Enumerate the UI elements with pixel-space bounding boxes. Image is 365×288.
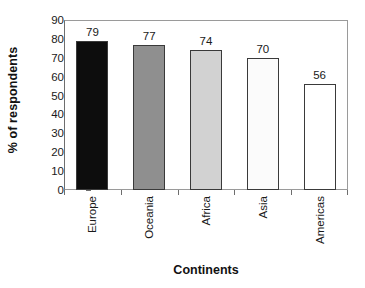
bar-africa	[190, 50, 222, 190]
x-axis-category-labels: Europe Oceania Africa Asia Americas	[64, 196, 348, 258]
x-category-asia: Asia	[235, 196, 291, 256]
bar-value-label: 56	[313, 69, 326, 82]
x-category-africa: Africa	[178, 196, 234, 256]
bar-chart: % of respondents 90 80 70 60 50 40 30 20…	[0, 0, 365, 288]
bar-value-label: 70	[256, 43, 269, 56]
x-category-label: Asia	[257, 196, 269, 218]
bar-value-label: 79	[86, 26, 99, 39]
y-axis-title-text: % of respondents	[6, 47, 20, 153]
x-tick-mark	[178, 190, 179, 195]
bar-slot-asia: 70	[234, 20, 291, 190]
bars-container: 79 77 74 70 56	[64, 20, 348, 190]
y-tick-label: 30	[30, 126, 64, 140]
bar-value-label: 74	[200, 35, 213, 48]
y-tick-label: 0	[30, 183, 64, 197]
x-tick-mark	[347, 190, 348, 195]
y-tick-label: 50	[30, 89, 64, 103]
bar-slot-africa: 74	[178, 20, 235, 190]
x-tick-mark	[234, 190, 235, 195]
x-category-label: Europe	[86, 196, 98, 233]
y-tick-label: 20	[30, 145, 64, 159]
x-axis-title: Continents	[64, 263, 348, 277]
bar-asia	[247, 58, 279, 190]
bar-americas	[304, 84, 336, 190]
x-category-oceania: Oceania	[121, 196, 177, 256]
y-tick-label: 70	[30, 51, 64, 65]
x-category-label: Oceania	[143, 196, 155, 239]
x-category-europe: Europe	[64, 196, 120, 256]
bar-slot-americas: 56	[291, 20, 348, 190]
y-tick-label: 80	[30, 32, 64, 46]
x-tick-mark	[121, 190, 122, 195]
bar-oceania	[133, 45, 165, 190]
y-tick-label: 90	[30, 13, 64, 27]
y-tick-label: 40	[30, 107, 64, 121]
bar-value-label: 77	[143, 30, 156, 43]
x-tick-mark	[64, 190, 65, 195]
bar-europe	[76, 41, 108, 190]
bar-slot-europe: 79	[64, 20, 121, 190]
x-category-label: Africa	[200, 196, 212, 225]
x-tick-mark	[291, 190, 292, 195]
bar-slot-oceania: 77	[121, 20, 178, 190]
x-category-americas: Americas	[292, 196, 348, 256]
y-tick-label: 60	[30, 70, 64, 84]
y-tick-label: 10	[30, 164, 64, 178]
x-category-label: Americas	[314, 196, 326, 244]
y-axis-tick-labels: 90 80 70 60 50 40 30 20 10 0	[22, 20, 64, 190]
